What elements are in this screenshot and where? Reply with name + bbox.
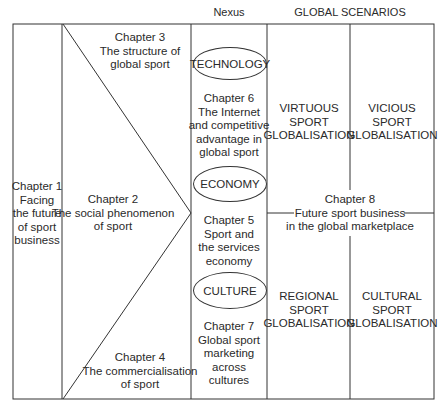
nexus-economy-label: ECONOMY [200, 178, 259, 190]
scenario-regional: REGIONAL SPORT GLOBALISATION [263, 290, 354, 331]
chapter-3-label: Chapter 3 The structure of global sport [100, 31, 181, 72]
nexus-economy-ellipse: ECONOMY [193, 166, 267, 202]
chapter-8-label: Chapter 8 Future sport business in the g… [286, 193, 414, 234]
header-nexus: Nexus [213, 6, 244, 20]
chapter-7-label: Chapter 7 Global sport marketing across … [198, 320, 260, 388]
scenario-vicious: VICIOUS SPORT GLOBALISATION [346, 102, 437, 143]
chapter-5-label: Chapter 5 Sport and the services economy [198, 214, 259, 268]
scenario-cultural: CULTURAL SPORT GLOBALISATION [346, 290, 437, 331]
nexus-culture-ellipse: CULTURE [193, 272, 267, 309]
nexus-technology-label: TECHNOLOGY [190, 58, 271, 70]
chapter-6-label: Chapter 6 The Internet and competitive a… [189, 92, 270, 160]
chapter-4-label: Chapter 4 The commercialisation of sport [82, 351, 197, 392]
chapter-2-label: Chapter 2 The social phenomenon of sport [52, 193, 175, 234]
nexus-culture-label: CULTURE [203, 285, 256, 297]
header-global-scenarios: GLOBAL SCENARIOS [294, 6, 405, 20]
nexus-technology-ellipse: TECHNOLOGY [193, 47, 267, 80]
scenario-virtuous: VIRTUOUS SPORT GLOBALISATION [263, 102, 354, 143]
